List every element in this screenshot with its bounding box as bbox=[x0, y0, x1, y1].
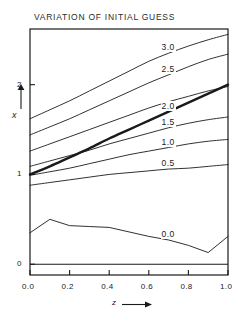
chart-figure: VARIATION OF INITIAL GUESS x z 0120.00.2… bbox=[0, 0, 246, 318]
curve-2.0 bbox=[30, 85, 228, 175]
curve-0.5 bbox=[30, 165, 228, 186]
y-tick-label: 2 bbox=[17, 80, 22, 89]
data-curves bbox=[30, 34, 228, 252]
curve-label-0.5: 0.5 bbox=[161, 158, 176, 168]
curve-label-2.0: 2.0 bbox=[161, 101, 176, 111]
x-axis-ticks bbox=[30, 270, 228, 275]
curve-label-2.5: 2.5 bbox=[161, 64, 176, 74]
curve-label-1.5: 1.5 bbox=[161, 117, 176, 127]
curve-label-0.0: 0.0 bbox=[161, 229, 176, 239]
x-tick-label: 0.0 bbox=[22, 282, 34, 291]
curve-0.0 bbox=[30, 219, 228, 252]
curve-2.0-alt bbox=[30, 86, 228, 151]
y-tick-label: 1 bbox=[17, 169, 22, 178]
x-tick-label: 0.4 bbox=[101, 282, 113, 291]
plot-frame bbox=[30, 29, 228, 275]
curve-3.0 bbox=[30, 34, 228, 118]
x-axis-arrow-icon bbox=[122, 300, 152, 309]
x-tick-label: 1.0 bbox=[220, 282, 232, 291]
curve-label-3.0: 3.0 bbox=[161, 42, 176, 52]
curve-1.0 bbox=[30, 139, 228, 175]
plot-area bbox=[0, 0, 246, 318]
x-tick-label: 0.2 bbox=[62, 282, 74, 291]
x-tick-label: 0.8 bbox=[180, 282, 192, 291]
y-axis-label: x bbox=[12, 110, 17, 120]
x-tick-label: 0.6 bbox=[141, 282, 153, 291]
curve-2.5 bbox=[30, 54, 228, 135]
curve-label-1.0: 1.0 bbox=[161, 137, 176, 147]
x-axis-label: z bbox=[112, 298, 116, 307]
curve-1.5 bbox=[30, 117, 228, 166]
y-tick-label: 0 bbox=[17, 259, 22, 268]
